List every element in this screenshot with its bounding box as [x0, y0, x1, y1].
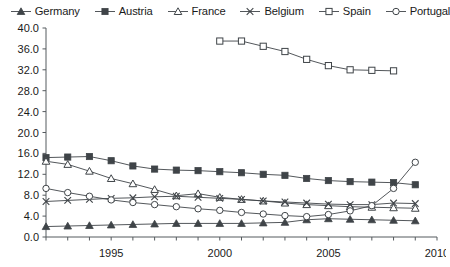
- series-france: [42, 158, 419, 212]
- series-line-france: [46, 161, 415, 208]
- data-point-austria-marker: [217, 169, 223, 175]
- series-germany: [42, 215, 419, 230]
- data-point-austria-marker: [412, 182, 418, 188]
- y-tick-label: 0.0: [24, 231, 39, 243]
- data-point-austria-marker: [86, 153, 92, 159]
- data-point-portugal-marker: [151, 201, 157, 207]
- data-point-austria-marker: [282, 172, 288, 178]
- y-tick-label: 4.0: [24, 210, 39, 222]
- y-tick-label: 20.0: [18, 127, 39, 139]
- data-point-portugal-marker: [108, 197, 114, 203]
- y-tick-label: 36.0: [18, 43, 39, 55]
- data-point-france-marker: [86, 167, 94, 174]
- data-point-austria-marker: [173, 167, 179, 173]
- data-point-portugal-marker: [325, 211, 331, 217]
- series-line-germany: [46, 219, 415, 227]
- data-point-portugal-marker: [130, 199, 136, 205]
- data-point-spain-marker: [238, 38, 244, 44]
- data-point-austria-marker: [130, 163, 136, 169]
- data-point-spain-marker: [282, 48, 288, 54]
- data-point-spain-marker: [390, 68, 396, 74]
- data-point-austria-marker: [369, 179, 375, 185]
- data-point-spain-marker: [217, 38, 223, 44]
- data-point-spain-marker: [304, 56, 310, 62]
- y-tick-label: 16.0: [18, 147, 39, 159]
- y-tick-label: 28.0: [18, 85, 39, 97]
- x-tick-label: 2000: [208, 247, 232, 259]
- data-point-spain-marker: [325, 63, 331, 69]
- data-point-portugal-marker: [412, 159, 418, 165]
- y-tick-label: 40.0: [18, 22, 39, 34]
- series-belgium: [43, 193, 419, 208]
- data-point-portugal-marker: [238, 209, 244, 215]
- data-point-portugal-marker: [65, 189, 71, 195]
- x-tick-label: 1995: [99, 247, 123, 259]
- y-tick-label: 32.0: [18, 64, 39, 76]
- data-point-spain-marker: [347, 67, 353, 73]
- series-austria: [43, 153, 418, 187]
- series-line-portugal: [46, 162, 415, 216]
- y-tick-label: 8.0: [24, 189, 39, 201]
- data-point-portugal-marker: [195, 206, 201, 212]
- data-point-austria-marker: [304, 175, 310, 181]
- data-point-portugal-marker: [86, 193, 92, 199]
- data-point-portugal-marker: [173, 203, 179, 209]
- data-point-portugal-marker: [347, 208, 353, 214]
- data-point-portugal-marker: [217, 207, 223, 213]
- data-point-portugal-marker: [282, 212, 288, 218]
- data-point-austria-marker: [260, 171, 266, 177]
- series-portugal: [43, 159, 419, 220]
- data-point-austria-marker: [238, 170, 244, 176]
- y-tick-label: 12.0: [18, 168, 39, 180]
- data-point-portugal-marker: [260, 211, 266, 217]
- data-point-spain-marker: [369, 67, 375, 73]
- data-point-portugal-marker: [43, 185, 49, 191]
- series-line-belgium: [46, 196, 415, 204]
- data-point-portugal-marker: [369, 202, 375, 208]
- data-point-austria-marker: [108, 158, 114, 164]
- data-point-france-marker: [194, 190, 202, 197]
- series-line-austria: [46, 157, 415, 185]
- data-point-austria-marker: [195, 168, 201, 174]
- data-point-austria-marker: [347, 179, 353, 185]
- data-point-france-marker: [107, 175, 115, 182]
- y-tick-label: 24.0: [18, 106, 39, 118]
- data-point-portugal-marker: [390, 185, 396, 191]
- x-tick-label: 2010: [425, 247, 446, 259]
- series-spain: [217, 38, 397, 74]
- data-point-austria-marker: [325, 177, 331, 183]
- x-tick-label: 2005: [316, 247, 340, 259]
- data-point-spain-marker: [260, 43, 266, 49]
- data-point-austria-marker: [152, 166, 158, 172]
- data-point-portugal-marker: [303, 213, 309, 219]
- data-point-austria-marker: [65, 154, 71, 160]
